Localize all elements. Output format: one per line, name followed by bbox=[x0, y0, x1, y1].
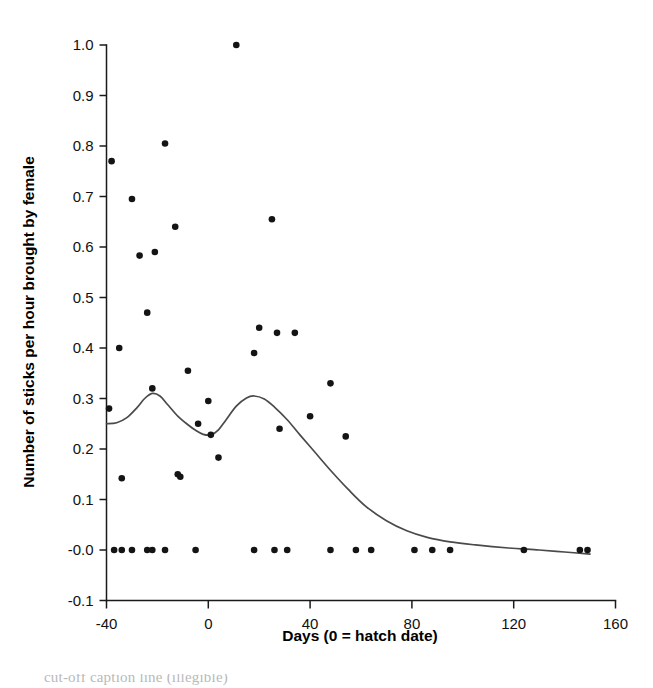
data-point bbox=[111, 547, 118, 554]
y-tick-label: 0.2 bbox=[73, 440, 94, 457]
data-point bbox=[256, 325, 263, 332]
y-axis-title: Number of sticks per hour brought by fem… bbox=[20, 156, 37, 488]
data-point bbox=[521, 547, 528, 554]
data-point bbox=[215, 454, 222, 461]
data-point bbox=[129, 196, 136, 203]
data-point bbox=[205, 398, 212, 405]
data-point bbox=[149, 547, 156, 554]
data-point bbox=[327, 547, 334, 554]
y-tick-label: 0.3 bbox=[73, 390, 94, 407]
data-point bbox=[429, 547, 436, 554]
data-point bbox=[271, 547, 278, 554]
data-point bbox=[307, 413, 314, 420]
y-axis-ticks: -0.1-0.00.10.20.30.40.50.60.70.80.91.0 bbox=[68, 36, 107, 609]
data-point bbox=[274, 330, 281, 337]
data-point bbox=[192, 547, 199, 554]
data-point bbox=[233, 42, 240, 49]
data-point bbox=[251, 350, 258, 357]
data-point bbox=[108, 158, 115, 165]
data-point bbox=[584, 547, 591, 554]
data-point bbox=[162, 140, 169, 147]
data-point bbox=[185, 367, 192, 374]
data-point bbox=[251, 547, 258, 554]
data-point bbox=[577, 547, 584, 554]
y-tick-label: 0.7 bbox=[73, 188, 94, 205]
scatter-plot: -0.1-0.00.10.20.30.40.50.60.70.80.91.0 -… bbox=[0, 0, 653, 688]
figure-container: -0.1-0.00.10.20.30.40.50.60.70.80.91.0 -… bbox=[0, 0, 653, 688]
data-point bbox=[144, 309, 151, 316]
x-tick-label: 0 bbox=[204, 615, 212, 632]
data-point bbox=[195, 420, 202, 427]
x-tick-label: 160 bbox=[603, 615, 628, 632]
data-point bbox=[172, 224, 179, 231]
data-point bbox=[353, 547, 360, 554]
y-tick-label: 1.0 bbox=[73, 36, 94, 53]
data-point bbox=[116, 345, 123, 352]
data-point bbox=[152, 249, 159, 256]
data-point bbox=[284, 547, 291, 554]
y-tick-label: -0.1 bbox=[68, 592, 94, 609]
data-point bbox=[342, 433, 349, 440]
y-tick-label: 0.5 bbox=[73, 289, 94, 306]
y-tick-label: 0.8 bbox=[73, 137, 94, 154]
data-point bbox=[292, 330, 299, 337]
data-point bbox=[162, 547, 169, 554]
data-point bbox=[269, 216, 276, 223]
data-point bbox=[118, 475, 125, 482]
data-point bbox=[136, 252, 143, 259]
y-tick-label: 0.6 bbox=[73, 238, 94, 255]
y-tick-label: 0.4 bbox=[73, 339, 94, 356]
data-point bbox=[106, 405, 113, 412]
x-axis-title: Days (0 = hatch date) bbox=[282, 627, 437, 644]
x-tick-label: 120 bbox=[501, 615, 526, 632]
data-point bbox=[129, 547, 136, 554]
y-tick-label: -0.0 bbox=[68, 541, 94, 558]
data-point bbox=[447, 547, 454, 554]
y-tick-label: 0.1 bbox=[73, 491, 94, 508]
data-point bbox=[118, 547, 125, 554]
y-tick-label: 0.9 bbox=[73, 87, 94, 104]
x-tick-label: -40 bbox=[96, 615, 118, 632]
data-point bbox=[276, 426, 283, 433]
data-point bbox=[411, 547, 418, 554]
data-point bbox=[208, 432, 215, 439]
plot-frame bbox=[107, 45, 616, 601]
data-point bbox=[368, 547, 375, 554]
data-point bbox=[149, 385, 156, 392]
data-point bbox=[327, 380, 334, 387]
data-points-group bbox=[106, 42, 591, 554]
data-point bbox=[177, 473, 184, 480]
